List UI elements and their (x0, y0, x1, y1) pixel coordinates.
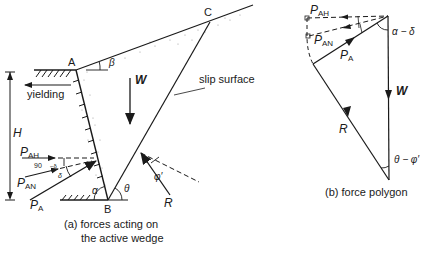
point-a-label: A (68, 56, 76, 68)
phi-label: φ′ (154, 171, 164, 182)
ground-hatch-bottom (62, 195, 90, 200)
p-a-label: PA (30, 198, 44, 213)
theta-label: θ (124, 183, 130, 194)
polygon-left-dashed (307, 18, 313, 64)
r-label: R (164, 196, 173, 210)
ground-hatch-top (36, 70, 71, 77)
p-an-dashed (60, 161, 92, 169)
polygon-tick-2 (360, 24, 362, 33)
beta-arc (99, 62, 100, 70)
wall-back (76, 70, 108, 200)
height-arrow-down (7, 192, 13, 200)
polygon-pan-label: PAN (314, 33, 333, 48)
minus-delta-label: −δ (50, 163, 58, 169)
polygon-w-arrowhead (385, 90, 392, 100)
slip-surface-label: slip surface (199, 73, 255, 85)
slip-surface-leader (174, 88, 205, 95)
beta-label: β (108, 57, 115, 68)
p-an-label: PAN (17, 176, 36, 191)
wedge-panel: A B C yielding H W slip surface β α θ R … (5, 5, 255, 244)
alpha-minus-delta-arc (377, 23, 388, 30)
phi-arc (151, 157, 159, 163)
polygon-pan-arrowhead (342, 24, 351, 29)
caption-b: (b) force polygon (325, 186, 408, 198)
weight-label: W (135, 73, 148, 87)
ninety-label: 90 (34, 162, 42, 169)
theta-minus-phi-label: θ − φ′ (394, 154, 420, 165)
polygon-r-label: R (339, 122, 348, 136)
caption-a-line2: the active wedge (81, 232, 164, 244)
alpha-label: α (92, 185, 98, 196)
point-c-label: C (204, 6, 212, 18)
delta-label: δ (58, 172, 62, 179)
backfill-slope (76, 5, 253, 70)
polygon-tick-1 (358, 16, 359, 28)
polygon-pa-label: PA (340, 48, 354, 63)
caption-a-line1: (a) forces acting on (64, 218, 158, 230)
polygon-pah-label: PAH (310, 3, 329, 18)
active-wedge-diagram: A B C yielding H W slip surface β α θ R … (0, 0, 425, 253)
polygon-w-label: W (396, 84, 409, 98)
polygon-pa-arrowhead (345, 37, 355, 46)
height-label: H (13, 126, 22, 140)
force-polygon-panel: PAH PAN PA W R α − δ θ − φ′ (b) force po… (305, 3, 420, 198)
p-an-arrow (25, 169, 58, 177)
theta-arc (115, 188, 122, 200)
polygon-pah-arrowhead (341, 15, 348, 20)
alpha-minus-delta-label: α − δ (392, 26, 415, 37)
polygon-r-vector (313, 64, 389, 180)
p-ah-label: PAH (20, 145, 39, 160)
height-arrow-up (7, 72, 13, 80)
theta-minus-phi-arc (381, 166, 389, 168)
point-b-label: B (104, 203, 111, 215)
r-normal-dashed (141, 153, 199, 182)
soil-stipple (81, 14, 240, 185)
yielding-label: yielding (27, 88, 64, 100)
delta-arc (66, 166, 71, 177)
